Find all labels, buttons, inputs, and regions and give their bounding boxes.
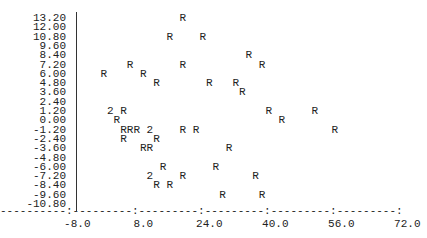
data-point-marker: R xyxy=(331,125,338,135)
data-point-marker: R xyxy=(166,32,173,42)
data-point-marker: R xyxy=(120,134,127,144)
data-point-marker: R xyxy=(179,60,186,70)
y-axis-line xyxy=(76,12,77,211)
x-tick-label: -8.0 xyxy=(64,219,90,229)
data-point-marker: R xyxy=(265,106,272,116)
data-point-marker: R xyxy=(179,171,186,181)
data-point-marker: R xyxy=(146,143,153,153)
data-point-marker: R xyxy=(226,143,233,153)
x-tick-label: 72.0 xyxy=(394,219,420,229)
data-point-marker: R xyxy=(153,180,160,190)
data-point-marker: R xyxy=(160,162,167,172)
data-point-marker: R xyxy=(252,171,259,181)
data-point-marker: R xyxy=(120,106,127,116)
x-axis-line: ----------:---------:---------:---------… xyxy=(0,206,403,216)
data-point-marker: R xyxy=(239,87,246,97)
data-point-marker: R xyxy=(133,125,140,135)
data-point-marker: R xyxy=(199,32,206,42)
data-point-marker: R xyxy=(100,69,107,79)
data-point-marker: R xyxy=(245,50,252,60)
data-point-marker: R xyxy=(259,190,266,200)
data-point-marker: R xyxy=(166,180,173,190)
x-tick-label: 56.0 xyxy=(328,219,354,229)
data-point-marker: R xyxy=(179,125,186,135)
data-point-marker: R xyxy=(153,134,160,144)
x-tick-label: 40.0 xyxy=(262,219,288,229)
data-point-marker: R xyxy=(206,78,213,88)
data-point-marker: R xyxy=(259,60,266,70)
data-point-marker: R xyxy=(153,78,160,88)
data-point-marker: R xyxy=(193,125,200,135)
x-tick-label: 8.0 xyxy=(133,219,153,229)
x-tick-label: 24.0 xyxy=(196,219,222,229)
data-point-marker: R xyxy=(278,115,285,125)
data-point-marker: R xyxy=(219,190,226,200)
data-point-marker: R xyxy=(212,162,219,172)
data-point-marker: R xyxy=(311,106,318,116)
data-point-marker: R xyxy=(179,13,186,23)
data-point-marker: R xyxy=(127,60,134,70)
data-point-marker: R xyxy=(140,69,147,79)
